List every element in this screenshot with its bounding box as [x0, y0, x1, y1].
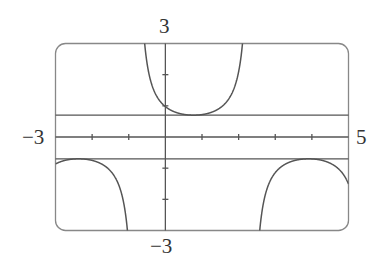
- y-min-label: −3: [150, 236, 172, 257]
- x-max-label: 5: [356, 127, 367, 148]
- x-min-label: −3: [22, 127, 44, 148]
- plot-area: [0, 0, 379, 263]
- y-max-label: 3: [159, 16, 170, 37]
